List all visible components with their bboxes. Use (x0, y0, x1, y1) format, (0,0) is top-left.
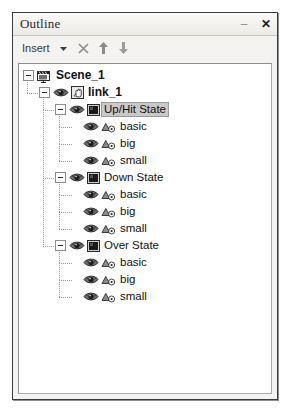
x-delete-icon[interactable] (75, 40, 92, 57)
tree-connector-line (59, 212, 60, 229)
insert-button[interactable]: Insert (20, 41, 52, 55)
tree-node-label: link_1 (86, 86, 124, 99)
outline-tree-panel[interactable]: Scene_1link_1Up/Hit StatebasicbigsmallDo… (18, 63, 272, 394)
tree-connector-line (43, 110, 44, 178)
tree-node-label: Down State (102, 171, 165, 184)
tree-connector-line (59, 263, 60, 280)
tree-row[interactable]: basic (19, 186, 271, 203)
tree-connector-line (59, 127, 60, 144)
panel-title: Outline (20, 16, 60, 32)
tree-node-label: small (118, 290, 149, 303)
tree-connector-line (27, 82, 28, 93)
eye-icon[interactable] (83, 206, 99, 217)
tree-connector-line (43, 246, 57, 247)
tree-connector-line (59, 127, 73, 128)
shape-object-icon (101, 189, 116, 201)
eye-icon[interactable] (83, 121, 99, 132)
arrow-up-icon[interactable] (95, 40, 112, 57)
tree-row[interactable]: basic (19, 118, 271, 135)
close-icon[interactable]: ✕ (260, 17, 272, 31)
tree-connector-line (59, 161, 73, 162)
arrow-down-icon[interactable] (115, 40, 132, 57)
tree-connector-line (59, 212, 73, 213)
eye-icon[interactable] (83, 274, 99, 285)
tree-node-list: Scene_1link_1Up/Hit StatebasicbigsmallDo… (19, 64, 271, 305)
tree-node-label: big (118, 137, 137, 150)
scene-clapper-icon (37, 69, 52, 83)
tree-connector-line (59, 195, 73, 196)
state-square-icon (87, 104, 100, 116)
tree-row[interactable]: small (19, 152, 271, 169)
eye-icon[interactable] (69, 172, 85, 183)
outline-toolbar: Insert (13, 36, 277, 60)
tree-connector-line (59, 195, 60, 212)
tree-node-label: Scene_1 (54, 69, 107, 82)
tree-node-label: small (118, 222, 149, 235)
hand-link-icon (71, 86, 84, 99)
tree-connector-line (59, 144, 60, 161)
eye-icon[interactable] (83, 155, 99, 166)
tree-connector-line (59, 229, 73, 230)
eye-icon[interactable] (83, 291, 99, 302)
eye-icon[interactable] (83, 189, 99, 200)
tree-connector-line (59, 280, 73, 281)
chevron-down-icon[interactable] (55, 40, 72, 57)
tree-connector-line (59, 116, 60, 127)
tree-connector-line (59, 297, 73, 298)
tree-node-label: small (118, 154, 149, 167)
tree-row[interactable]: small (19, 288, 271, 305)
tree-row[interactable]: big (19, 271, 271, 288)
tree-node-label: Up/Hit State (102, 103, 168, 116)
shape-object-icon (101, 291, 116, 303)
eye-icon[interactable] (69, 104, 85, 115)
tree-connector-line (59, 263, 73, 264)
window-controls: – ✕ (238, 13, 272, 35)
tree-node-label: Over State (102, 239, 161, 252)
tree-connector-line (59, 252, 60, 263)
shape-object-icon (101, 121, 116, 133)
tree-expander-collapse-icon[interactable] (23, 70, 34, 81)
tree-row[interactable]: small (19, 220, 271, 237)
eye-icon[interactable] (83, 138, 99, 149)
tree-connector-line (43, 99, 44, 110)
window-title-bar: Outline – ✕ (13, 13, 277, 36)
tree-node-label: big (118, 205, 137, 218)
eye-icon[interactable] (83, 257, 99, 268)
tree-node-label: basic (118, 256, 149, 269)
tree-row[interactable]: basic (19, 254, 271, 271)
tree-connector-line (59, 280, 60, 297)
tree-connector-line (27, 93, 41, 94)
tree-connector-line (59, 184, 60, 195)
state-square-icon (87, 172, 100, 184)
shape-object-icon (101, 257, 116, 269)
tree-row[interactable]: Scene_1 (19, 67, 271, 84)
tree-connector-line (43, 110, 57, 111)
eye-icon[interactable] (83, 223, 99, 234)
shape-object-icon (101, 223, 116, 235)
eye-icon[interactable] (53, 87, 69, 98)
tree-connector-line (43, 178, 57, 179)
tree-node-label: basic (118, 120, 149, 133)
shape-object-icon (101, 206, 116, 218)
eye-icon[interactable] (69, 240, 85, 251)
tree-node-label: big (118, 273, 137, 286)
tree-row[interactable]: big (19, 135, 271, 152)
tree-row[interactable]: link_1 (19, 84, 271, 101)
tree-row[interactable]: big (19, 203, 271, 220)
shape-object-icon (101, 138, 116, 150)
shape-object-icon (101, 274, 116, 286)
minimize-icon[interactable]: – (238, 17, 250, 32)
shape-object-icon (101, 155, 116, 167)
outline-panel-window: Outline – ✕ Insert Scene_1link_1Up/Hit S (12, 12, 278, 400)
tree-node-label: basic (118, 188, 149, 201)
tree-connector-line (59, 144, 73, 145)
state-square-icon (87, 240, 100, 252)
tree-connector-line (43, 178, 44, 246)
